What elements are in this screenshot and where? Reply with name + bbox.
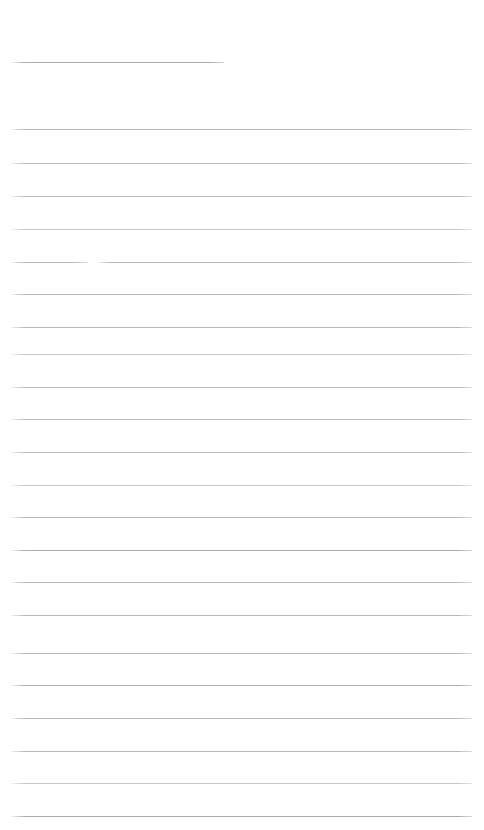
rule-5 [11, 229, 472, 230]
rule-6-segment-right [97, 262, 472, 263]
rule-7 [11, 294, 472, 295]
rule-9 [11, 354, 472, 355]
rule-17 [11, 615, 472, 616]
rule-2 [11, 129, 472, 130]
scanned-page [0, 0, 484, 830]
rule-15 [11, 550, 472, 551]
rule-20 [11, 718, 472, 719]
rule-10 [11, 387, 472, 388]
rule-12 [11, 452, 472, 453]
rule-3 [11, 163, 472, 164]
rule-8 [11, 327, 472, 328]
rule-18 [11, 653, 472, 654]
rule-11 [11, 419, 472, 420]
rule-23 [11, 816, 472, 817]
rule-13 [11, 485, 472, 486]
rule-4 [11, 196, 472, 197]
rule-19 [11, 685, 472, 686]
rule-6-segment-left [11, 262, 88, 263]
rule-22 [11, 783, 472, 784]
rule-21 [11, 751, 472, 752]
rule-16 [11, 582, 472, 583]
rule-14 [11, 517, 472, 518]
rule-1 [11, 62, 224, 63]
